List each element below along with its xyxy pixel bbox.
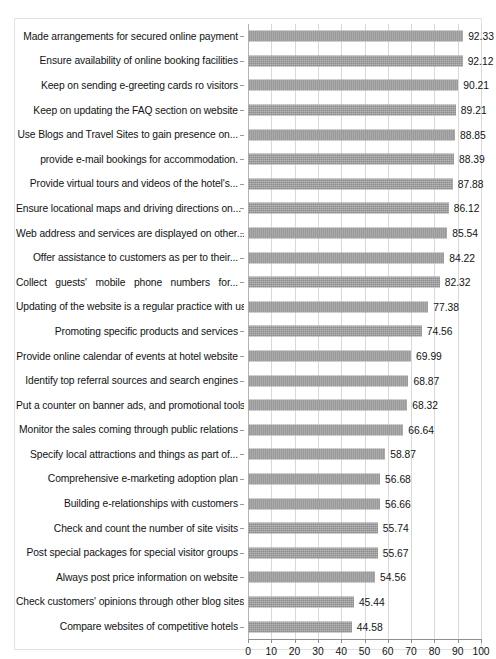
x-tick-mark-100 xyxy=(481,639,482,643)
bar-value-label: 55.67 xyxy=(378,547,409,558)
y-tick-mark xyxy=(240,208,244,209)
row-plot-area: 45.44 xyxy=(244,590,482,615)
bar-row: Specify local attractions and things as … xyxy=(16,442,482,467)
bar-row: Check and count the number of site visit… xyxy=(16,516,482,541)
bar-value-label: 86.12 xyxy=(449,203,480,214)
x-tick-label-90: 90 xyxy=(452,646,463,658)
bar-row: Made arrangements for secured online pay… xyxy=(16,24,482,49)
y-tick-mark xyxy=(240,61,244,62)
category-label: Offer assistance to customers as per to … xyxy=(16,252,244,263)
bar xyxy=(248,203,449,214)
bar-row: Keep on updating the FAQ section on webs… xyxy=(16,98,482,123)
bar-value-label: 85.54 xyxy=(447,228,478,239)
bar xyxy=(248,228,447,239)
bar xyxy=(248,572,375,583)
category-label: Ensure locational maps and driving direc… xyxy=(16,203,244,214)
row-plot-area: 66.64 xyxy=(244,418,482,443)
row-plot-area: 58.87 xyxy=(244,442,482,467)
category-label: Compare websites of competitive hotels xyxy=(16,621,244,632)
category-label: Check customers' opinions through other … xyxy=(16,596,244,607)
bar-row: Provide online calendar of events at hot… xyxy=(16,344,482,369)
row-plot-area: 86.12 xyxy=(244,196,482,221)
category-label: Provide virtual tours and videos of the … xyxy=(16,178,244,189)
bar xyxy=(248,351,411,362)
bar-row: provide e-mail bookings for accommodatio… xyxy=(16,147,482,172)
bar xyxy=(248,424,403,435)
x-tick-mark-90 xyxy=(458,639,459,643)
category-label: Promoting specific products and services xyxy=(16,326,244,337)
y-tick-mark xyxy=(240,553,244,554)
bar-row: Ensure availability of online booking fa… xyxy=(16,49,482,74)
row-plot-area: 90.21 xyxy=(244,73,482,98)
category-label: Keep on updating the FAQ section on webs… xyxy=(16,105,244,116)
row-plot-area: 54.56 xyxy=(244,565,482,590)
y-tick-mark xyxy=(240,36,244,37)
bar-value-label: 45.44 xyxy=(354,596,385,607)
bar-row: Post special packages for special visito… xyxy=(16,540,482,565)
bar xyxy=(248,473,380,484)
row-plot-area: 69.99 xyxy=(244,344,482,369)
y-tick-mark xyxy=(240,504,244,505)
category-label: Identify top referral sources and search… xyxy=(16,375,244,386)
bar-value-label: 58.87 xyxy=(385,449,416,460)
bar xyxy=(248,105,456,116)
y-tick-mark xyxy=(240,331,244,332)
category-label: Updating of the website is a regular pra… xyxy=(16,301,244,312)
row-plot-area: 87.88 xyxy=(244,172,482,197)
bar-value-label: 56.66 xyxy=(380,498,411,509)
x-tick-label-60: 60 xyxy=(382,646,393,658)
bar-value-label: 74.56 xyxy=(422,326,453,337)
bar-value-label: 68.32 xyxy=(407,400,438,411)
category-label: Made arrangements for secured online pay… xyxy=(16,31,244,42)
row-plot-area: 55.74 xyxy=(244,516,482,541)
bar xyxy=(248,547,378,558)
bar-row: Compare websites of competitive hotels44… xyxy=(16,614,482,639)
category-label: Use Blogs and Travel Sites to gain prese… xyxy=(16,129,244,140)
row-plot-area: 88.85 xyxy=(244,122,482,147)
row-plot-area: 88.39 xyxy=(244,147,482,172)
x-tick-label-20: 20 xyxy=(289,646,300,658)
bar-value-label: 89.21 xyxy=(456,105,487,116)
category-label: Post special packages for special visito… xyxy=(16,547,244,558)
y-tick-mark xyxy=(240,528,244,529)
row-plot-area: 92.12 xyxy=(244,49,482,74)
bar-row: Collect guests' mobile phone numbers for… xyxy=(16,270,482,295)
y-tick-mark xyxy=(240,135,244,136)
category-label: provide e-mail bookings for accommodatio… xyxy=(16,154,244,165)
x-tick-label-40: 40 xyxy=(335,646,346,658)
x-tick-label-70: 70 xyxy=(405,646,416,658)
bar xyxy=(248,55,463,66)
category-label: Monitor the sales coming through public … xyxy=(16,424,244,435)
x-tick-mark-60 xyxy=(388,639,389,643)
bar-value-label: 55.74 xyxy=(378,523,409,534)
category-label: Web address and services are displayed o… xyxy=(16,228,244,239)
bar xyxy=(248,326,422,337)
x-tick-mark-10 xyxy=(271,639,272,643)
x-tick-mark-70 xyxy=(411,639,412,643)
row-plot-area: 55.67 xyxy=(244,540,482,565)
x-axis-line xyxy=(248,639,482,640)
bar-row: Identify top referral sources and search… xyxy=(16,368,482,393)
x-tick-label-50: 50 xyxy=(359,646,370,658)
bar-row: Keep on sending e-greeting cards ro visi… xyxy=(16,73,482,98)
y-tick-mark xyxy=(240,258,244,259)
category-label: Comprehensive e-marketing adoption plan xyxy=(16,473,244,484)
bar-rows: Made arrangements for secured online pay… xyxy=(16,24,482,639)
bar-row: Check customers' opinions through other … xyxy=(16,590,482,615)
bar-value-label: 56.68 xyxy=(380,473,411,484)
bar-value-label: 69.99 xyxy=(411,351,442,362)
y-tick-mark xyxy=(240,233,244,234)
bar-row: Monitor the sales coming through public … xyxy=(16,418,482,443)
x-tick-mark-80 xyxy=(434,639,435,643)
bar xyxy=(248,301,428,312)
bar xyxy=(248,498,380,509)
bar xyxy=(248,621,352,632)
y-tick-mark xyxy=(240,356,244,357)
row-plot-area: 56.66 xyxy=(244,491,482,516)
row-plot-area: 44.58 xyxy=(244,614,482,639)
category-label: Always post price information on website xyxy=(16,572,244,583)
y-tick-mark xyxy=(240,307,244,308)
bar-value-label: 54.56 xyxy=(375,572,406,583)
y-tick-mark xyxy=(240,627,244,628)
x-tick-label-30: 30 xyxy=(312,646,323,658)
